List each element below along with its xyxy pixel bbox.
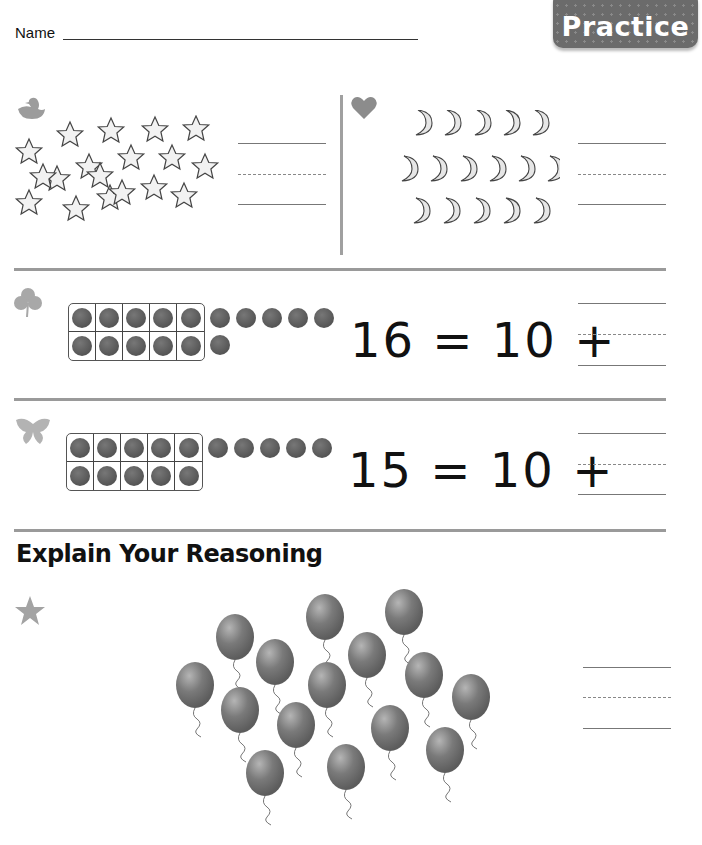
answer-line[interactable] xyxy=(583,667,671,668)
equation-total: 16 xyxy=(350,312,415,368)
answer-line[interactable] xyxy=(583,728,671,729)
answer-line[interactable] xyxy=(578,143,666,144)
section-heading: Explain Your Reasoning xyxy=(16,540,322,568)
plus-sign: + xyxy=(572,442,614,498)
answer-line-dashed xyxy=(238,174,326,175)
answer-line[interactable] xyxy=(578,303,666,304)
section-divider xyxy=(14,268,666,271)
practice-badge-label: Practice xyxy=(553,11,698,42)
extra-counters xyxy=(208,438,338,462)
star-icon xyxy=(14,595,46,627)
section-divider xyxy=(14,529,666,532)
equation-total: 15 xyxy=(348,442,413,498)
moons-group xyxy=(390,110,560,225)
answer-line[interactable] xyxy=(578,204,666,205)
answer-line[interactable] xyxy=(578,365,666,366)
extra-counters xyxy=(210,308,340,358)
plus-sign: + xyxy=(574,312,616,368)
clover-icon xyxy=(14,287,42,319)
answer-line[interactable] xyxy=(578,494,666,495)
butterfly-icon xyxy=(14,418,52,446)
answer-line-dashed xyxy=(578,174,666,175)
stars-group xyxy=(12,115,227,225)
equation-ten: 10 xyxy=(490,442,555,498)
ten-frame xyxy=(66,433,203,491)
section-divider xyxy=(14,398,666,401)
heart-icon xyxy=(350,96,378,120)
equation: 15 = 10 + xyxy=(348,442,614,498)
answer-line-dashed xyxy=(578,334,666,335)
answer-line[interactable] xyxy=(578,433,666,434)
equals-sign: = xyxy=(430,442,472,498)
column-divider xyxy=(340,95,343,255)
answer-line[interactable] xyxy=(238,143,326,144)
name-label: Name xyxy=(15,24,55,41)
equals-sign: = xyxy=(432,312,474,368)
answer-line[interactable] xyxy=(238,204,326,205)
name-input-line[interactable] xyxy=(63,39,418,40)
equation: 16 = 10 + xyxy=(350,312,616,368)
answer-line-dashed xyxy=(578,464,666,465)
answer-line-dashed xyxy=(583,697,671,698)
ten-frame xyxy=(68,303,205,361)
practice-badge: Practice xyxy=(553,0,698,48)
balloons-group xyxy=(170,585,500,835)
equation-ten: 10 xyxy=(492,312,557,368)
